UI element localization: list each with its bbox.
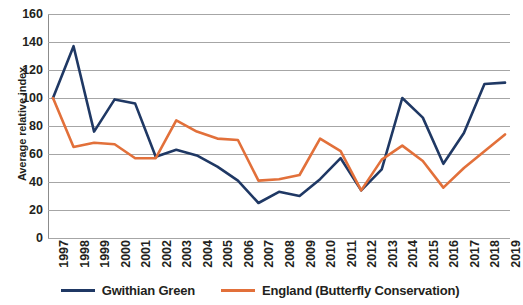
x-tick-label: 2017 <box>469 240 482 268</box>
x-tick-label: 1998 <box>79 240 92 268</box>
y-axis-title: Average relative index <box>16 24 28 224</box>
y-tick-label: 120 <box>22 64 43 77</box>
x-tick-label: 2007 <box>263 240 276 268</box>
x-tick-label: 2000 <box>120 240 133 268</box>
x-tick-label: 2019 <box>510 240 523 268</box>
clipped-title <box>0 0 520 6</box>
x-tick-label: 2018 <box>489 240 502 268</box>
legend-label: England (Butterfly Conservation) <box>262 283 459 298</box>
legend-color-swatch <box>221 289 255 292</box>
x-tick-label: 2004 <box>202 240 215 268</box>
plot-area: 160140120100806040200 <box>48 14 510 238</box>
x-tick-label: 1997 <box>58 240 71 268</box>
legend-item[interactable]: Gwithian Green <box>61 283 195 298</box>
y-tick-label: 140 <box>22 36 43 49</box>
y-tick-label: 60 <box>29 148 43 161</box>
y-tick-label: 80 <box>29 120 43 133</box>
series-line <box>53 98 505 190</box>
series-layer <box>48 14 510 238</box>
x-tick-label: 2016 <box>448 240 461 268</box>
x-tick-label: 2015 <box>428 240 441 268</box>
x-tick-label: 2008 <box>284 240 297 268</box>
x-tick-label: 2013 <box>387 240 400 268</box>
y-tick-label: 100 <box>22 92 43 105</box>
x-tick-label: 2001 <box>140 240 153 268</box>
x-tick-label: 2009 <box>305 240 318 268</box>
x-tick-label: 2002 <box>161 240 174 268</box>
x-tick-label: 2014 <box>407 240 420 268</box>
y-tick-label: 160 <box>22 8 43 21</box>
chart-legend: Gwithian GreenEngland (Butterfly Conserv… <box>0 283 520 298</box>
legend-color-swatch <box>61 289 95 292</box>
x-tick-label: 1999 <box>99 240 112 268</box>
legend-label: Gwithian Green <box>102 283 195 298</box>
y-tick-label: 0 <box>36 232 43 245</box>
x-tick-label: 2012 <box>366 240 379 268</box>
x-tick-label: 2010 <box>325 240 338 268</box>
x-tick-label: 2011 <box>346 240 359 267</box>
y-tick-label: 40 <box>29 176 43 189</box>
x-tick-label: 2003 <box>181 240 194 268</box>
x-axis-labels: 1997199819992000200120022003200420052006… <box>48 240 510 284</box>
y-tick-label: 20 <box>29 204 43 217</box>
x-tick-label: 2005 <box>222 240 235 268</box>
x-tick-label: 2006 <box>243 240 256 268</box>
legend-item[interactable]: England (Butterfly Conservation) <box>221 283 459 298</box>
